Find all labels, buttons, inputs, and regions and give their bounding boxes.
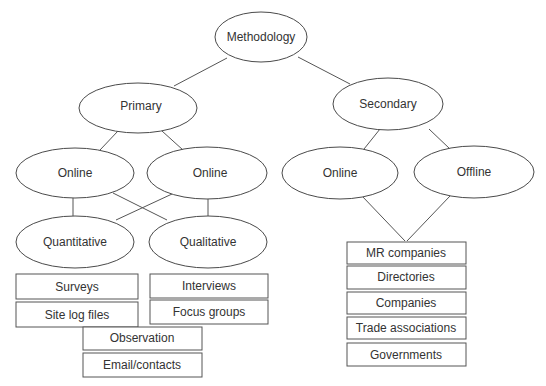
box-label: Focus groups [173, 305, 246, 319]
edge-offline-mr [407, 196, 450, 241]
node-qualitative: Qualitative [149, 216, 267, 268]
box-focus-groups: Focus groups [150, 300, 268, 324]
box-trade-associations: Trade associations [347, 317, 466, 339]
node-primary-online-1: Online [16, 148, 134, 198]
box-label: Directories [377, 270, 434, 284]
node-primary: Primary [79, 83, 197, 133]
node-secondary-online: Online [282, 147, 398, 199]
node-label: Offline [457, 165, 492, 179]
box-label: Interviews [182, 279, 236, 293]
box-label: Site log files [45, 308, 110, 322]
edge-online2-quantitative [116, 194, 172, 220]
box-governments: Governments [347, 343, 466, 366]
box-label: Governments [370, 348, 442, 362]
node-quantitative: Quantitative [16, 216, 134, 268]
node-label: Online [58, 166, 93, 180]
edge-secondary-online3 [364, 129, 380, 149]
node-primary-online-2: Online [147, 147, 267, 199]
node-label: Quantitative [43, 235, 107, 249]
edge-methodology-secondary [298, 57, 350, 84]
box-label: Email/contacts [103, 358, 181, 372]
edge-primary-online1 [100, 131, 118, 150]
box-label: Companies [376, 296, 437, 310]
edge-primary-online2 [162, 131, 183, 150]
edge-online1-qualitative [113, 193, 167, 220]
box-surveys: Surveys [16, 274, 138, 299]
node-label: Primary [120, 99, 161, 113]
node-secondary-offline: Offline [414, 146, 534, 198]
box-label: MR companies [366, 246, 446, 260]
box-observation: Observation [83, 327, 202, 350]
node-secondary: Secondary [333, 78, 443, 130]
node-methodology: Methodology [215, 12, 307, 62]
node-label: Online [323, 166, 358, 180]
box-mr-companies: MR companies [347, 242, 466, 264]
node-label: Qualitative [180, 235, 237, 249]
box-label: Surveys [55, 280, 98, 294]
box-label: Observation [110, 331, 175, 345]
node-label: Secondary [359, 97, 416, 111]
edge-online3-mr [362, 196, 405, 241]
methodology-diagram: Methodology Primary Secondary Online Onl… [0, 0, 546, 386]
box-directories: Directories [347, 266, 466, 289]
node-label: Online [193, 166, 228, 180]
box-site-log-files: Site log files [16, 302, 138, 327]
edge-secondary-offline [429, 129, 450, 149]
edge-methodology-primary [174, 58, 227, 86]
node-label: Methodology [227, 30, 296, 44]
box-email-contacts: Email/contacts [83, 353, 202, 377]
box-companies: Companies [347, 292, 466, 314]
box-interviews: Interviews [150, 274, 268, 298]
box-label: Trade associations [356, 321, 456, 335]
